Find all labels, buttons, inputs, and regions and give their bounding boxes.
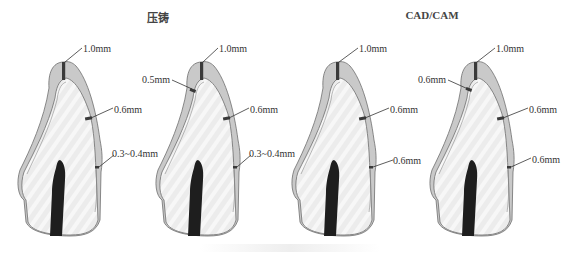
tooth-diagram <box>0 0 572 256</box>
label-t4-labial-cervical: 0.6mm <box>532 154 560 165</box>
leader-line <box>65 48 82 62</box>
faded-caption <box>200 244 380 252</box>
label-t2-labial-middle: 0.6mm <box>250 104 278 115</box>
label-t3-labial-middle: 0.6mm <box>390 104 418 115</box>
tooth-2 <box>156 48 251 236</box>
label-t2-lingual: 0.5mm <box>142 74 170 85</box>
label-t1-labial-cervical: 0.3~0.4mm <box>112 148 158 159</box>
tooth-1 <box>18 48 114 236</box>
label-t4-labial-middle: 0.6mm <box>529 104 557 115</box>
tooth-3 <box>292 48 393 236</box>
leader-line <box>339 48 358 62</box>
label-t2-labial-cervical: 0.3~0.4mm <box>249 148 295 159</box>
leader-line <box>203 48 218 62</box>
label-t4-lingual: 0.6mm <box>418 74 446 85</box>
label-t2-incisal: 1.0mm <box>219 43 247 54</box>
label-t4-incisal: 1.0mm <box>496 43 524 54</box>
label-t1-incisal: 1.0mm <box>83 43 111 54</box>
leader-line <box>477 48 495 62</box>
label-t3-labial-cervical: 0.6mm <box>393 155 421 166</box>
label-t3-incisal: 1.0mm <box>359 43 387 54</box>
label-t1-labial-middle: 0.6mm <box>114 104 142 115</box>
